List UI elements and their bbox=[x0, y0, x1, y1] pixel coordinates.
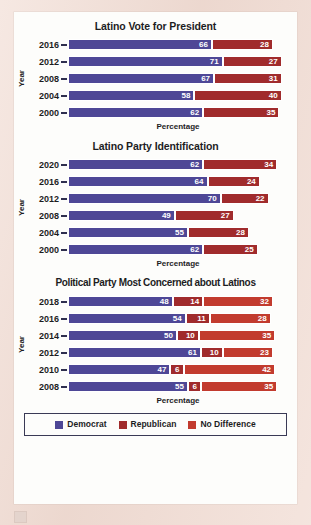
stacked-bar: 501035 bbox=[68, 330, 297, 341]
year-tick-label: 2012 bbox=[29, 348, 61, 358]
legend-swatch-no-difference bbox=[188, 421, 196, 429]
bar-row: 20084927 bbox=[29, 207, 297, 224]
bar-value-label: 28 bbox=[260, 40, 272, 49]
year-tick-label: 2000 bbox=[29, 108, 61, 118]
legend-item-democrat[interactable]: Democrat bbox=[55, 420, 106, 429]
stacked-bar: 481432 bbox=[68, 296, 297, 307]
legend-label: No Difference bbox=[200, 420, 255, 429]
plot-area: Year 20166628201271272008673120045840200… bbox=[14, 36, 297, 121]
axis-tick-mark bbox=[61, 335, 67, 337]
year-tick-label: 2014 bbox=[29, 331, 61, 341]
chart-political-party-most-concerned-about-latinos: Political Party Most Concerned about Lat… bbox=[14, 268, 297, 405]
bar-row: 200855635 bbox=[29, 378, 297, 395]
bar-value-label: 31 bbox=[269, 74, 281, 83]
stacked-bar: 7127 bbox=[68, 56, 297, 67]
stacked-bar: 55635 bbox=[68, 381, 297, 392]
x-axis-label: Percentage bbox=[59, 396, 297, 405]
bar-value-label: 6 bbox=[175, 365, 182, 374]
x-axis-label: Percentage bbox=[59, 122, 297, 131]
bar-segment-rep: 27 bbox=[223, 56, 282, 67]
bar-value-label: 66 bbox=[199, 40, 211, 49]
stacked-bar: 6731 bbox=[68, 73, 297, 84]
axis-tick-mark bbox=[61, 352, 67, 354]
bar-segment-dem: 62 bbox=[68, 107, 203, 118]
bar-value-label: 11 bbox=[197, 314, 208, 323]
bar-value-label: 24 bbox=[247, 177, 259, 186]
y-axis-label: Year bbox=[14, 156, 29, 258]
bar-segment-dem: 48 bbox=[68, 296, 173, 307]
y-axis-label-text: Year bbox=[17, 199, 26, 216]
bar-row: 20045528 bbox=[29, 224, 297, 241]
bar-row: 20127022 bbox=[29, 190, 297, 207]
bar-segment-nod: 32 bbox=[203, 296, 273, 307]
bar-segment-rep: 25 bbox=[203, 244, 258, 255]
year-tick-label: 2016 bbox=[29, 40, 61, 50]
bar-rows: 2020623420166424201270222008492720045528… bbox=[29, 156, 297, 258]
bar-value-label: 70 bbox=[208, 194, 220, 203]
figure-legend: DemocratRepublicanNo Difference bbox=[24, 413, 287, 436]
legend-swatch-democrat bbox=[55, 421, 63, 429]
bar-value-label: 58 bbox=[182, 91, 194, 100]
bar-value-label: 55 bbox=[175, 382, 187, 391]
bar-value-label: 47 bbox=[158, 365, 170, 374]
axis-tick-mark bbox=[61, 369, 67, 371]
y-axis-label-text: Year bbox=[17, 70, 26, 87]
year-tick-label: 2004 bbox=[29, 228, 61, 238]
plot-area: Year 20206234201664242012702220084927200… bbox=[14, 156, 297, 258]
bar-value-label: 35 bbox=[264, 382, 276, 391]
axis-tick-mark bbox=[61, 386, 67, 388]
chart-title: Political Party Most Concerned about Lat… bbox=[14, 277, 297, 289]
year-tick-label: 2020 bbox=[29, 160, 61, 170]
bar-segment-nod: 28 bbox=[210, 313, 271, 324]
stacked-bar: 7022 bbox=[68, 193, 297, 204]
x-axis-label-wrap: Percentage bbox=[14, 122, 297, 131]
y-axis-label: Year bbox=[14, 293, 29, 395]
bar-value-label: 25 bbox=[245, 245, 257, 254]
bar-value-label: 49 bbox=[162, 211, 174, 220]
bar-row: 20006235 bbox=[29, 104, 297, 121]
stacked-bar: 5840 bbox=[68, 90, 297, 101]
bar-value-label: 55 bbox=[175, 228, 187, 237]
axis-tick-mark bbox=[61, 44, 67, 46]
year-tick-label: 2004 bbox=[29, 91, 61, 101]
bar-row: 2012611023 bbox=[29, 344, 297, 361]
bar-row: 20206234 bbox=[29, 156, 297, 173]
chart-latino-vote-for-president: Latino Vote for President Year 201666282… bbox=[14, 12, 297, 131]
year-tick-label: 2012 bbox=[29, 194, 61, 204]
stacked-bar: 6235 bbox=[68, 107, 297, 118]
plot-area: Year 20184814322016541128201450103520126… bbox=[14, 293, 297, 395]
bar-rows: 2016662820127127200867312004584020006235 bbox=[29, 36, 297, 121]
bar-value-label: 54 bbox=[173, 314, 185, 323]
y-axis-label: Year bbox=[14, 36, 29, 121]
bar-segment-dem: 47 bbox=[68, 364, 170, 375]
legend-item-no-difference[interactable]: No Difference bbox=[188, 420, 255, 429]
bar-segment-rep: 27 bbox=[175, 210, 234, 221]
legend-item-republican[interactable]: Republican bbox=[119, 420, 177, 429]
axis-tick-mark bbox=[61, 215, 67, 217]
legend-swatch-republican bbox=[119, 421, 127, 429]
bar-value-label: 32 bbox=[260, 297, 272, 306]
bar-segment-dem: 55 bbox=[68, 227, 188, 238]
bar-row: 20045840 bbox=[29, 87, 297, 104]
bar-segment-rep: 14 bbox=[173, 296, 204, 307]
bar-row: 2016541128 bbox=[29, 310, 297, 327]
bar-value-label: 6 bbox=[193, 382, 200, 391]
chart-latino-party-identification: Latino Party Identification Year 2020623… bbox=[14, 131, 297, 268]
stacked-bar: 6234 bbox=[68, 159, 297, 170]
bar-value-label: 42 bbox=[262, 365, 274, 374]
bar-row: 20166424 bbox=[29, 173, 297, 190]
axis-tick-mark bbox=[61, 249, 67, 251]
bar-value-label: 23 bbox=[260, 348, 272, 357]
bar-segment-dem: 58 bbox=[68, 90, 194, 101]
bar-segment-rep: 6 bbox=[188, 381, 201, 392]
stacked-bar: 6424 bbox=[68, 176, 297, 187]
bar-value-label: 71 bbox=[210, 57, 222, 66]
x-axis-label: Percentage bbox=[59, 259, 297, 268]
bar-value-label: 10 bbox=[210, 348, 222, 357]
year-tick-label: 2008 bbox=[29, 74, 61, 84]
y-axis-label-text: Year bbox=[17, 336, 26, 353]
bar-row: 20086731 bbox=[29, 70, 297, 87]
bar-value-label: 27 bbox=[269, 57, 281, 66]
bar-value-label: 40 bbox=[269, 91, 281, 100]
bar-row: 201047642 bbox=[29, 361, 297, 378]
